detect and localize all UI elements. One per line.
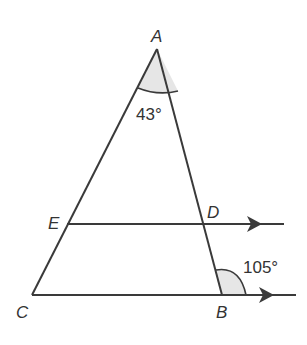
label-c: C [16,303,29,322]
side-ab [157,49,222,295]
label-e: E [48,214,60,233]
label-b: B [216,303,227,322]
angle-a-label: 43° [136,105,162,124]
triangle-diagram: A E D C B 43° 105° [0,0,307,345]
label-a: A [150,27,162,46]
label-d: D [207,203,219,222]
angle-b-label: 105° [243,258,278,277]
side-ac [32,49,157,295]
